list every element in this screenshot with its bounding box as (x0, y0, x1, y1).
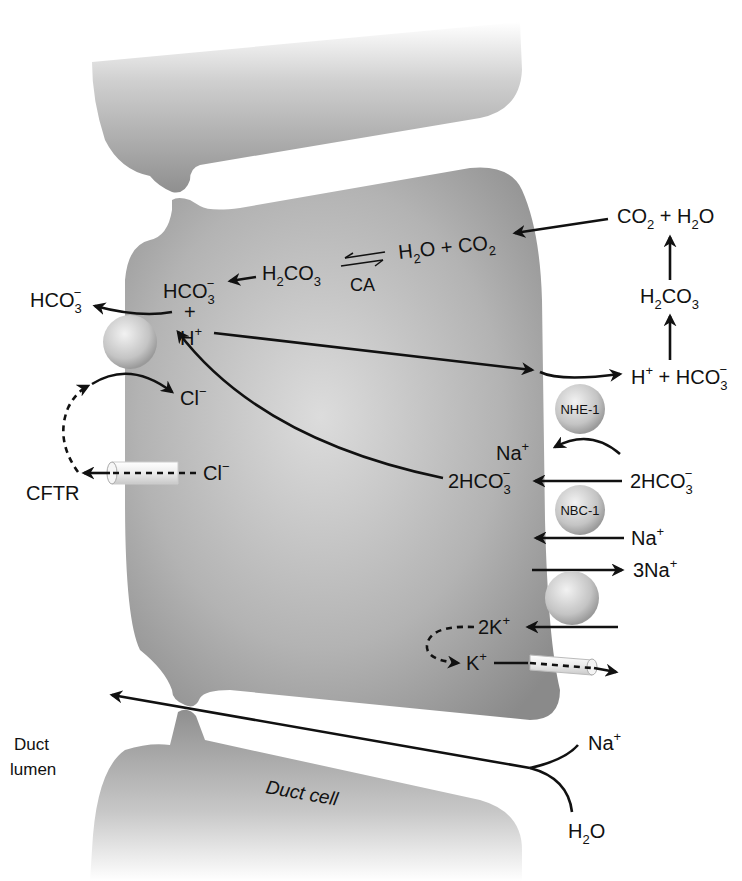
svg-text:2HCO3−: 2HCO3− (630, 466, 693, 497)
plus-sign: + (184, 301, 196, 323)
cl-recycle-dashed-arrow (63, 386, 88, 472)
svg-text:Na+: Na+ (588, 729, 621, 754)
na-k-atpase-pump (545, 571, 599, 625)
upper-duct-cell (92, 22, 522, 193)
svg-text:NBC-1: NBC-1 (560, 503, 599, 518)
extracellular-h2co3: H2CO3 (640, 285, 699, 312)
nbc1-transporter: NBC-1 (555, 485, 605, 535)
luminal-hco3: HCO3− (30, 285, 82, 316)
h-plus-exit-arrow (540, 372, 620, 378)
svg-text:NHE-1: NHE-1 (560, 402, 599, 417)
svg-text:HCO3−: HCO3− (30, 285, 82, 316)
svg-text:CO2 + H2O: CO2 + H2O (617, 205, 714, 232)
paracellular-h2o: H2O (568, 820, 605, 847)
extracellular-na: Na+ (631, 524, 664, 549)
extracellular-co2-h2o: CO2 + H2O (617, 205, 714, 232)
k-out-arrow (594, 668, 616, 672)
duct-cell-diagram: Duct cell Duct lumen HCO3− H2CO3 CA H2O … (0, 0, 742, 881)
svg-text:Na+: Na+ (631, 524, 664, 549)
svg-text:H+ + HCO3−: H+ + HCO3− (631, 362, 728, 393)
cftr-label: CFTR (26, 482, 79, 504)
carbonic-anhydrase-label: CA (350, 275, 375, 295)
extracellular-h-hco3: H+ + HCO3− (631, 362, 728, 393)
h2o-branch-line (530, 768, 572, 812)
cl-hco3-exchanger (103, 315, 157, 369)
svg-text:H2CO3: H2CO3 (640, 285, 699, 312)
duct-lumen-label-line1: Duct (14, 735, 49, 754)
nhe1-transporter: NHE-1 (555, 384, 605, 434)
extracellular-2hco3: 2HCO3− (630, 466, 693, 497)
svg-text:3Na+: 3Na+ (633, 556, 677, 581)
na-branch-line (530, 745, 578, 768)
svg-text:H2O: H2O (568, 820, 605, 847)
paracellular-na: Na+ (588, 729, 621, 754)
na-via-nhe1-arrow (555, 439, 620, 454)
duct-lumen-label-line2: lumen (10, 760, 56, 779)
extracellular-3na: 3Na+ (633, 556, 677, 581)
